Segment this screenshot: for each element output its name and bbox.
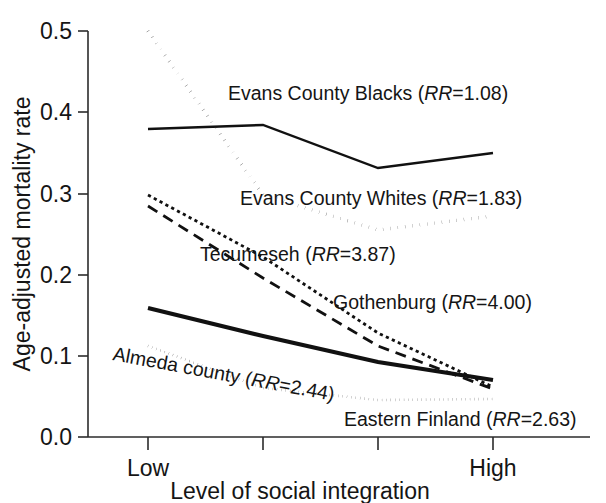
series-label-evans-county-whites: Evans County Whites (RR=1.83) [240, 187, 522, 209]
label-text-finland-suffix: =2.63) [521, 408, 577, 430]
series-label-eastern-finland: Eastern Finland (RR=2.63) [344, 408, 577, 430]
label-text-evans-whites-suffix: =1.83) [467, 187, 523, 209]
label-text-evans-whites-prefix: Evans County Whites ( [240, 187, 439, 209]
label-text-evans-blacks-suffix: =1.08) [452, 82, 508, 104]
y-tick-label-0.4: 0.4 [40, 99, 72, 125]
series-label-evans-county-blacks: Evans County Blacks (RR=1.08) [228, 82, 508, 104]
label-rr-finland: RR [493, 408, 521, 430]
label-rr-evans-whites: RR [438, 187, 466, 209]
series-label-gothenburg: Gothenburg (RR=4.00) [333, 291, 532, 313]
label-rr-evans-blacks: RR [424, 82, 452, 104]
line-chart-svg: 0.5 0.4 0.3 0.2 0.1 0.0 Age-adjusted mor… [0, 0, 606, 503]
label-text-tecumseh-prefix: Tecumeseh ( [200, 243, 312, 265]
y-tick-label-0.1: 0.1 [40, 343, 72, 369]
y-tick-label-0.0: 0.0 [40, 424, 72, 450]
y-axis-title: Age-adjusted mortality rate [9, 97, 35, 372]
y-tick-label-0.3: 0.3 [40, 181, 72, 207]
y-tick-label-0.2: 0.2 [40, 262, 72, 288]
chart-figure: 0.5 0.4 0.3 0.2 0.1 0.0 Age-adjusted mor… [0, 0, 606, 503]
label-rr-tecumseh: RR [312, 243, 340, 265]
x-tick-label-low: Low [127, 455, 170, 481]
label-text-finland-prefix: Eastern Finland ( [344, 408, 493, 430]
y-tick-label-0.5: 0.5 [40, 18, 72, 44]
label-text-tecumseh-suffix: =3.87) [340, 243, 396, 265]
x-tick-label-high: High [469, 455, 516, 481]
label-text-gothenburg-prefix: Gothenburg ( [333, 291, 448, 313]
series-label-tecumseh: Tecumeseh (RR=3.87) [200, 243, 396, 265]
label-text-evans-blacks-prefix: Evans County Blacks ( [228, 82, 425, 104]
x-axis-title: Level of social integration [170, 478, 430, 503]
label-text-gothenburg-suffix: =4.00) [476, 291, 532, 313]
label-rr-gothenburg: RR [448, 291, 476, 313]
